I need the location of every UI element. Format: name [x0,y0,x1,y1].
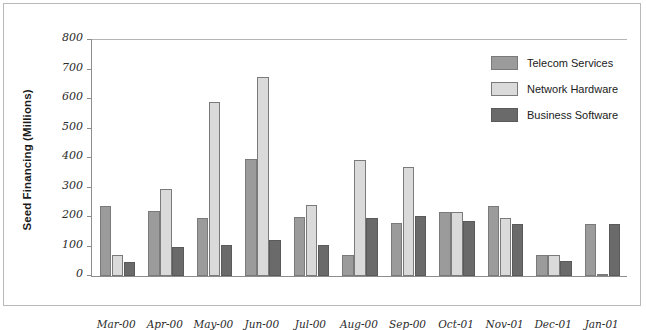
y-axis-tick-label: 0 [76,267,83,280]
y-axis-tick-mark [87,275,92,276]
bar [245,159,257,276]
y-axis-tick-mark [87,216,92,217]
bar [318,245,330,276]
bar [160,189,172,276]
y-axis-tick-mark [87,98,92,99]
y-axis-tick-label: 400 [62,149,83,162]
bar [100,206,112,276]
legend-swatch [491,82,518,96]
bar-group [197,40,233,276]
bar [439,212,451,276]
legend-label: Network Hardware [527,83,618,95]
bar [257,77,269,276]
bar [609,224,621,276]
bar [294,217,306,276]
y-axis-tick-mark [87,69,92,70]
y-axis-tick-mark [87,128,92,129]
y-axis-tick-label: 500 [62,120,83,133]
y-axis-tick-label: 200 [62,208,83,221]
bar [597,274,609,276]
y-axis-tick-mark [87,246,92,247]
chart-frame: Seed Financing (Millions) 01002003004005… [3,3,641,306]
bar [124,262,136,276]
legend-item: Telecom Services [491,52,618,73]
legend-swatch [491,56,518,70]
bar [536,255,548,276]
bar [403,167,415,276]
y-axis-tick-label: 800 [62,31,83,44]
bar [451,212,463,276]
bar-group [245,40,281,276]
bar [585,224,597,276]
chart-legend: Telecom ServicesNetwork HardwareBusiness… [491,52,618,130]
y-axis-tick-label: 100 [62,238,83,251]
bar [209,102,221,276]
x-axis-line [91,276,627,277]
y-axis-tick-mark [87,39,92,40]
bar-group [100,40,136,276]
bar [112,255,124,276]
bar [560,261,572,276]
legend-swatch [491,108,518,122]
bar [221,245,233,276]
x-axis-tick-label: Jan-01 [571,318,632,330]
bar [148,211,160,276]
bar [172,247,184,276]
y-axis-tick-label: 300 [62,179,83,192]
bar [342,255,354,276]
bar [415,216,427,276]
y-axis-tick-mark [87,157,92,158]
bar-group [439,40,475,276]
bar [306,205,318,276]
bar [391,223,403,276]
legend-item: Business Software [491,104,618,125]
legend-label: Business Software [527,109,618,121]
bar [500,218,512,276]
bar-group [148,40,184,276]
bar [463,221,475,276]
bar-group [294,40,330,276]
legend-item: Network Hardware [491,78,618,99]
bar [366,218,378,276]
y-axis-tick-label: 700 [62,61,83,74]
bar-group [342,40,378,276]
y-axis-title: Seed Financing (Millions) [18,4,36,315]
y-axis-tick-mark [87,187,92,188]
bar [269,240,281,276]
bar [197,218,209,276]
bar [488,206,500,276]
y-axis-title-text: Seed Financing (Millions) [21,89,33,230]
bar [354,160,366,276]
bar [548,255,560,276]
bar-group [391,40,427,276]
legend-label: Telecom Services [527,57,613,69]
y-axis-tick-label: 600 [62,90,83,103]
bar [512,224,524,276]
